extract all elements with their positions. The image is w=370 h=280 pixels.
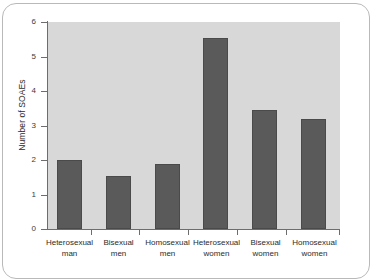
y-tick-5 — [41, 57, 47, 58]
y-tick-1 — [41, 195, 47, 196]
x-tick-1 — [91, 230, 92, 235]
x-tick-6 — [339, 230, 340, 235]
y-tick-2 — [41, 160, 47, 161]
x-tick-4 — [237, 230, 238, 235]
bar-heterosexual-man — [57, 160, 82, 229]
plot-area — [48, 22, 340, 229]
y-axis-line — [47, 21, 48, 230]
x-tick-5 — [286, 230, 287, 235]
bar-homosexual-men — [155, 164, 180, 229]
y-tick-4 — [41, 91, 47, 92]
y-tick-0 — [41, 229, 47, 230]
x-axis-line — [41, 229, 340, 230]
y-axis-title: Number of SOAEs — [17, 55, 27, 175]
bar-bisexual-women — [252, 110, 277, 229]
y-tick-label-1: 1 — [22, 191, 36, 199]
y-tick-6 — [41, 22, 47, 23]
x-tick-2 — [139, 230, 140, 235]
y-tick-label-6: 6 — [22, 18, 36, 26]
bar-bisexual-men — [106, 176, 131, 230]
bar-heterosexual-women — [203, 38, 228, 230]
y-tick-3 — [41, 126, 47, 127]
bar-homosexual-women — [301, 119, 326, 230]
x-label-homosexual-women: Homosexual women — [278, 238, 351, 259]
x-tick-3 — [188, 230, 189, 235]
y-tick-label-0: 0 — [22, 225, 36, 233]
